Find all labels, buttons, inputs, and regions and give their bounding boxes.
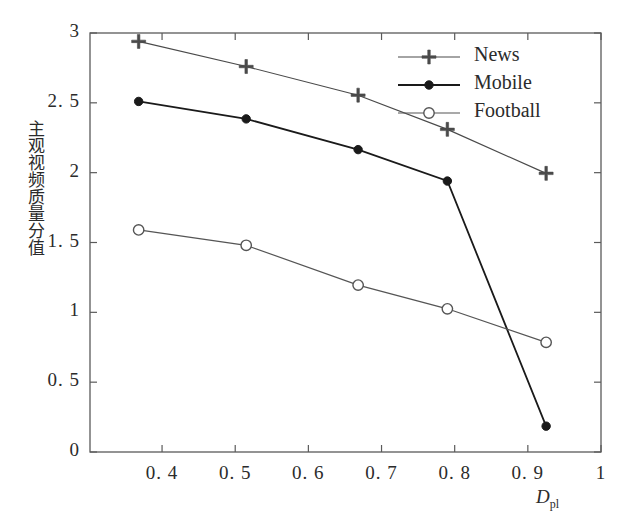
y-tick-label-1: 0. 5 xyxy=(16,369,80,391)
axes-frame-rect xyxy=(90,33,601,452)
x-tick-label-0: 0. 4 xyxy=(130,462,194,484)
open-circle-marker xyxy=(133,225,143,235)
filled-circle-marker xyxy=(242,115,250,123)
marker-filled-circle xyxy=(443,177,451,185)
legend-markers xyxy=(398,50,460,118)
legend-label-football: Football xyxy=(474,99,541,122)
plot-area xyxy=(0,0,631,527)
y-tick-label-0: 0 xyxy=(16,439,80,461)
y-tick-label-4: 2 xyxy=(16,160,80,182)
chart-figure: 主观视频质量分值 Dpl 00. 511. 522. 530. 40. 50. … xyxy=(0,0,631,527)
star-marker xyxy=(440,122,454,136)
x-tick-label-6: 1 xyxy=(569,462,631,484)
series-line-football xyxy=(139,230,546,343)
marker-star xyxy=(539,166,553,180)
y-tick-label-6: 3 xyxy=(16,20,80,42)
y-tick-label-2: 1 xyxy=(16,299,80,321)
marker-star xyxy=(132,34,146,48)
open-circle-marker xyxy=(353,280,363,290)
marker-open-circle xyxy=(442,304,452,314)
legend-label-news: News xyxy=(474,43,520,66)
marker-star xyxy=(440,122,454,136)
marker-filled-circle xyxy=(242,115,250,123)
open-circle-marker xyxy=(424,108,434,118)
star-marker xyxy=(351,88,365,102)
y-tick-label-3: 1. 5 xyxy=(16,230,80,252)
star-marker xyxy=(132,34,146,48)
star-marker xyxy=(239,60,253,74)
legend-label-mobile: Mobile xyxy=(474,71,532,94)
open-circle-marker xyxy=(541,337,551,347)
x-tick-label-4: 0. 8 xyxy=(423,462,487,484)
marker-filled-circle xyxy=(425,81,433,89)
filled-circle-marker xyxy=(134,97,142,105)
x-tick-label-3: 0. 7 xyxy=(350,462,414,484)
marker-star xyxy=(422,50,436,64)
marker-open-circle xyxy=(241,240,251,250)
series-line-mobile xyxy=(139,101,546,426)
star-marker xyxy=(539,166,553,180)
marker-star xyxy=(239,60,253,74)
filled-circle-marker xyxy=(443,177,451,185)
axis-ticks xyxy=(90,33,601,452)
star-marker xyxy=(422,50,436,64)
marker-filled-circle xyxy=(542,422,550,430)
marker-filled-circle xyxy=(134,97,142,105)
axes-frame xyxy=(90,33,601,452)
filled-circle-marker xyxy=(354,145,362,153)
open-circle-marker xyxy=(241,240,251,250)
marker-star xyxy=(351,88,365,102)
marker-filled-circle xyxy=(354,145,362,153)
filled-circle-marker xyxy=(542,422,550,430)
filled-circle-marker xyxy=(425,81,433,89)
y-tick-label-5: 2. 5 xyxy=(16,90,80,112)
x-tick-label-5: 0. 9 xyxy=(496,462,560,484)
marker-open-circle xyxy=(424,108,434,118)
marker-open-circle xyxy=(133,225,143,235)
x-tick-label-1: 0. 5 xyxy=(203,462,267,484)
marker-open-circle xyxy=(353,280,363,290)
x-tick-label-2: 0. 6 xyxy=(276,462,340,484)
marker-open-circle xyxy=(541,337,551,347)
open-circle-marker xyxy=(442,304,452,314)
